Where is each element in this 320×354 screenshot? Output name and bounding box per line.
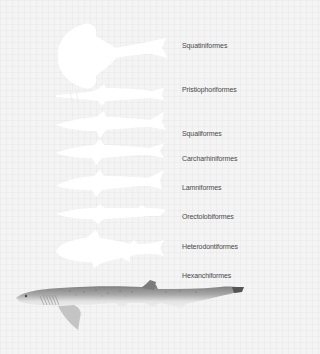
label-squaliformes: Squaliformes (182, 130, 222, 137)
label-heterodontiformes: Heterodontiformes (182, 243, 238, 250)
label-hexanchiformes: Hexanchiformes (182, 272, 231, 279)
label-carcharhiniformes: Carcharhiniformes (182, 155, 238, 162)
label-lamniformes: Lamniformes (182, 184, 221, 191)
label-orectolobiformes: Orectolobiformes (182, 213, 234, 220)
hexanchiformes-illustration (0, 0, 261, 354)
label-squatiniformes: Squatiniformes (182, 42, 227, 49)
label-pristiophoriformes: Pristiophoriformes (182, 86, 237, 93)
